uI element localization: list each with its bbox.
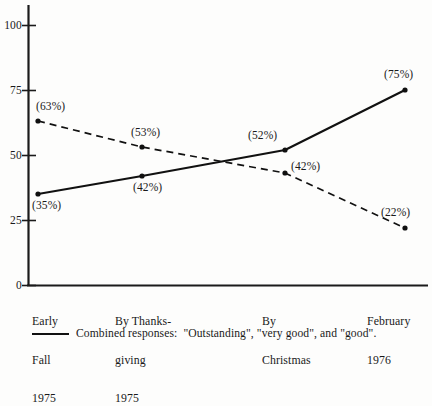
x-category-label-2: By Thanks- giving 1975	[115, 290, 171, 406]
value-label-dashed-1: (63%)	[36, 100, 65, 112]
data-point-solid-3	[282, 147, 287, 152]
x-category-1-line2: Fall	[32, 354, 58, 367]
data-point-solid-1	[35, 191, 40, 196]
x-category-label-4: February 1976	[367, 290, 410, 392]
x-category-4-line2: 1976	[367, 354, 410, 367]
x-category-1-line3: 1975	[32, 392, 58, 405]
data-point-dashed-1	[35, 118, 40, 123]
y-tick-label-0: 0	[0, 279, 22, 291]
series-dashed-line	[38, 121, 405, 228]
x-category-label-3: By Christmas	[262, 290, 311, 392]
value-label-dashed-3: (42%)	[291, 160, 320, 172]
data-point-dashed-2	[139, 144, 144, 149]
y-tick-label-25: 25	[0, 214, 22, 226]
data-point-dashed-3	[282, 170, 287, 175]
x-category-1-line1: Early	[32, 315, 58, 328]
x-category-2-line2: giving	[115, 354, 171, 367]
value-label-dashed-2: (53%)	[131, 126, 160, 138]
series-solid-line	[38, 90, 405, 194]
y-tick-label-100: 100	[0, 19, 22, 31]
value-label-solid-4: (75%)	[384, 68, 413, 80]
value-label-solid-2: (42%)	[133, 181, 162, 193]
value-label-solid-3: (52%)	[248, 129, 277, 141]
legend-caption: Combined responses: "Outstanding", "very…	[76, 328, 376, 341]
x-category-label-1: Early Fall 1975	[32, 290, 58, 406]
x-category-3-line2: Christmas	[262, 354, 311, 367]
y-tick-label-50: 50	[0, 149, 22, 161]
data-point-solid-2	[139, 173, 144, 178]
data-point-solid-4	[402, 87, 407, 92]
y-tick-label-75: 75	[0, 84, 22, 96]
x-category-2-line3: 1975	[115, 392, 171, 405]
value-label-solid-1: (35%)	[32, 199, 61, 211]
value-label-dashed-4: (22%)	[381, 206, 410, 218]
data-point-dashed-4	[402, 225, 407, 230]
